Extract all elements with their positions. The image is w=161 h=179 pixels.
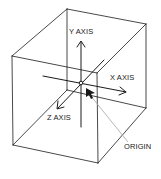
y-axis-label: Y AXIS bbox=[69, 28, 93, 36]
z-axis-label: Z AXIS bbox=[47, 114, 71, 122]
x-axis-label: X AXIS bbox=[110, 74, 134, 82]
coordinate-cube-diagram: Y AXIS X AXIS Z AXIS ORIGIN bbox=[0, 0, 161, 179]
origin-pointer-icon bbox=[86, 88, 95, 99]
origin-point bbox=[79, 81, 83, 85]
back-face bbox=[67, 9, 146, 108]
front-face bbox=[12, 56, 98, 163]
origin-label: ORIGIN bbox=[124, 143, 151, 151]
